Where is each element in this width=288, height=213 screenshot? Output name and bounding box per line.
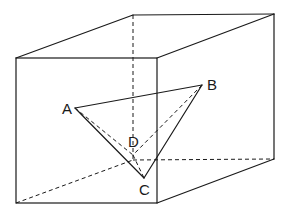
label-B: B [207,76,217,93]
cuboid-visible-edges [16,14,274,203]
vertex-labels: A B C D [62,76,217,198]
edge-CD-hidden [133,155,144,178]
bottom-left-hidden-edge [16,160,133,203]
label-A: A [62,100,72,117]
cuboid-tetrahedron-diagram: A B C D [0,0,288,213]
tetrahedron [75,85,202,178]
top-right-edge [157,14,274,58]
bottom-right-edge [157,159,274,203]
front-face [16,58,157,203]
top-back-edge [133,14,274,15]
diagram-canvas: A B C D [0,0,288,213]
edge-BC [144,85,202,178]
edge-AD-hidden [75,108,133,155]
edge-AB [75,85,202,108]
top-left-edge [16,15,133,58]
bottom-back-hidden-edge [133,159,274,160]
label-C: C [139,181,150,198]
label-D: D [128,133,139,150]
